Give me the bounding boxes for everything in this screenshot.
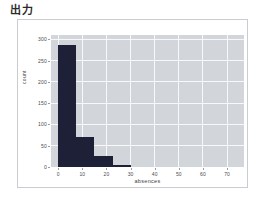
output-card: 050100150200250300 010203040506070 count… bbox=[17, 19, 248, 188]
x-tick-mark bbox=[82, 168, 83, 170]
x-tick-label: 10 bbox=[79, 171, 85, 177]
gridline-horizontal bbox=[51, 124, 244, 125]
gridline-horizontal bbox=[51, 81, 244, 82]
x-tick-label: 0 bbox=[57, 171, 60, 177]
histogram-figure: 050100150200250300 010203040506070 count… bbox=[18, 20, 249, 189]
y-tick-label: 100 bbox=[31, 121, 47, 127]
x-tick-mark bbox=[203, 168, 204, 170]
gridline-vertical bbox=[202, 35, 203, 167]
gridline-horizontal bbox=[51, 60, 244, 61]
histogram-bar bbox=[58, 45, 76, 167]
y-tick-label: 0 bbox=[31, 164, 47, 170]
gridline-vertical bbox=[154, 35, 155, 167]
x-tick-mark bbox=[58, 168, 59, 170]
gridline-vertical bbox=[106, 35, 107, 167]
y-tick-mark bbox=[48, 167, 50, 168]
y-tick-label: 250 bbox=[31, 58, 47, 64]
x-axis-label: absences bbox=[51, 178, 244, 184]
gridline-horizontal bbox=[51, 103, 244, 104]
x-tick-label: 50 bbox=[176, 171, 182, 177]
y-tick-label: 200 bbox=[31, 79, 47, 85]
output-title: 出力 bbox=[10, 3, 33, 17]
x-tick-mark bbox=[179, 168, 180, 170]
plot-panel bbox=[51, 35, 244, 167]
gridline-vertical bbox=[130, 35, 131, 167]
y-tick-label: 300 bbox=[31, 36, 47, 42]
y-axis-label: count bbox=[21, 70, 27, 84]
x-tick-label: 20 bbox=[104, 171, 110, 177]
y-tick-mark bbox=[48, 124, 50, 125]
histogram-bar bbox=[76, 137, 94, 167]
x-tick-mark bbox=[227, 168, 228, 170]
x-tick-mark bbox=[155, 168, 156, 170]
histogram-bar bbox=[113, 165, 131, 167]
x-tick-label: 30 bbox=[128, 171, 134, 177]
y-tick-label: 50 bbox=[31, 143, 47, 149]
y-tick-mark bbox=[48, 82, 50, 83]
gridline-horizontal bbox=[51, 39, 244, 40]
gridline-vertical bbox=[227, 35, 228, 167]
x-tick-label: 40 bbox=[152, 171, 158, 177]
gridline-vertical bbox=[178, 35, 179, 167]
histogram-bar bbox=[94, 156, 112, 167]
y-tick-mark bbox=[48, 39, 50, 40]
y-tick-mark bbox=[48, 103, 50, 104]
x-tick-mark bbox=[131, 168, 132, 170]
x-tick-label: 70 bbox=[224, 171, 230, 177]
x-tick-label: 60 bbox=[200, 171, 206, 177]
y-tick-mark bbox=[48, 146, 50, 147]
y-tick-label: 150 bbox=[31, 100, 47, 106]
x-tick-mark bbox=[106, 168, 107, 170]
y-tick-mark bbox=[48, 61, 50, 62]
